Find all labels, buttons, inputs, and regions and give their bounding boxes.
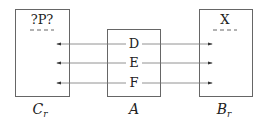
box-b-r: X [200,10,253,97]
box-c-r: ?P? [16,10,70,97]
caption-c-r: Cr [32,101,48,119]
port-d-label: D [129,36,139,51]
box-c-r-header: ?P? [31,12,54,27]
port-e-label: E [129,55,139,70]
diagram-canvas: ?P? D E F X D E F Cr A Br [0,0,266,124]
port-f-label: F [129,75,138,90]
caption-a: A [127,101,139,117]
caption-b-r: Br [216,101,232,119]
box-b-r-header: X [220,12,230,27]
